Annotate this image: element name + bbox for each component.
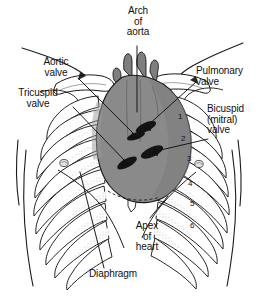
rib-number-3: 3 [187, 155, 191, 163]
label-tricuspid-valve: Tricuspid valve [6, 88, 70, 109]
label-apex-of-heart: Apex of heart [122, 221, 172, 253]
rib-number-5: 5 [190, 200, 194, 208]
label-arch-of-aorta: Arch of aorta [108, 6, 168, 38]
label-diaphragm: Diaphragm [89, 269, 169, 280]
rib-number-4: 4 [188, 180, 192, 188]
label-pulmonary-valve: Pulmonary valve [196, 66, 262, 87]
brachiocephalic-trunk [124, 54, 132, 78]
rib-number-1: 1 [178, 113, 182, 121]
landmark-right [195, 160, 203, 167]
label-aortic-valve: Aortic valve [30, 57, 82, 78]
label-bicuspid-mitral-valve: Bicuspid (mitral) valve [207, 104, 263, 136]
anatomy-illustration [0, 0, 263, 302]
landmark-left [60, 159, 68, 166]
rib-number-6: 6 [190, 222, 194, 230]
heart-thorax-diagram: Arch of aorta Aortic valve Tricuspid val… [0, 0, 263, 302]
rib-number-2: 2 [181, 135, 185, 143]
